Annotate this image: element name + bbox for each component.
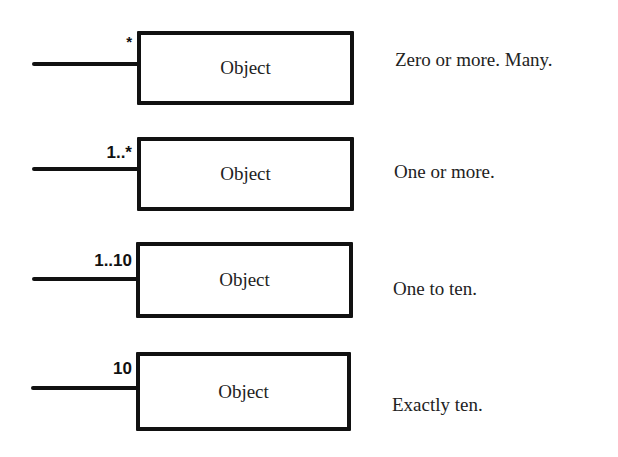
- multiplicity-label: *: [90, 33, 132, 50]
- object-box: Object: [137, 137, 354, 211]
- multiplicity-description: One to ten.: [393, 278, 477, 300]
- object-box: Object: [136, 352, 351, 431]
- association-line: [32, 277, 140, 281]
- multiplicity-description: Zero or more. Many.: [395, 49, 553, 71]
- object-label: Object: [220, 163, 271, 185]
- association-line: [32, 167, 140, 171]
- multiplicity-description: One or more.: [394, 161, 495, 183]
- association-line: [32, 62, 140, 66]
- association-line: [31, 386, 139, 390]
- multiplicity-label: 1..*: [70, 143, 132, 163]
- multiplicity-label: 1..10: [70, 251, 132, 271]
- object-label: Object: [220, 57, 271, 79]
- multiplicity-description: Exactly ten.: [392, 394, 483, 416]
- object-box: Object: [136, 242, 353, 318]
- object-box: Object: [137, 31, 354, 105]
- multiplicity-label: 10: [80, 359, 132, 379]
- object-label: Object: [218, 381, 269, 403]
- object-label: Object: [219, 269, 270, 291]
